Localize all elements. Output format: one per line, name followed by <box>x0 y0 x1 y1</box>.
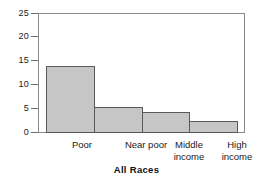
x-category-label-high-income: High income <box>201 139 273 162</box>
bar-high-income <box>189 121 238 133</box>
y-tick-mark-5 <box>31 108 38 109</box>
bar-chart: 0 5 10 15 20 25 Poor Near poor Middle in… <box>0 0 273 185</box>
bar-middle-income <box>142 112 191 133</box>
y-tick-mark-20 <box>31 36 38 37</box>
y-tick-label-0: 0 <box>24 128 29 137</box>
x-axis-title: All Races <box>0 164 273 175</box>
bar-series <box>38 13 245 133</box>
bar-near-poor <box>94 107 143 133</box>
bar-poor <box>46 66 95 133</box>
y-tick-label-5: 5 <box>24 104 29 113</box>
y-tick-label-10: 10 <box>19 80 29 89</box>
y-tick-mark-10 <box>31 84 38 85</box>
y-tick-mark-0 <box>31 132 38 133</box>
y-tick-mark-25 <box>31 13 38 14</box>
y-tick-label-15: 15 <box>19 56 29 65</box>
y-tick-label-20: 20 <box>19 32 29 41</box>
y-tick-mark-15 <box>31 60 38 61</box>
y-tick-label-25: 25 <box>19 9 29 18</box>
